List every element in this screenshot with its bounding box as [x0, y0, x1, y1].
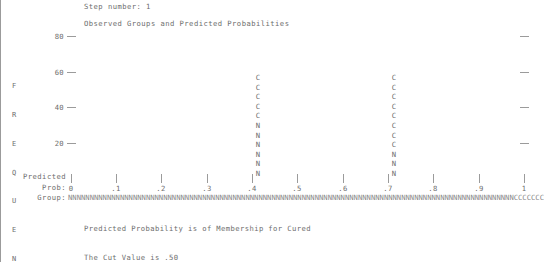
legend-block: Predicted Probability is of Membership f…	[84, 204, 311, 262]
y-tick-left-40	[67, 107, 76, 108]
x-tick-label-03: .3	[199, 184, 215, 193]
x-tick-02	[161, 174, 162, 183]
x-tick-08	[433, 174, 434, 183]
x-tick-label-01: .1	[108, 184, 124, 193]
y-axis-title-letter: R	[12, 111, 30, 121]
y-tick-left-60	[67, 72, 76, 73]
y-tick-right-60	[520, 72, 529, 73]
plot-symbol: N	[253, 150, 263, 160]
plot-symbol: N	[253, 121, 263, 131]
plot-symbol: N	[253, 140, 263, 150]
plot-symbol: N	[389, 169, 399, 179]
x-tick-label-09: .9	[471, 184, 487, 193]
x-tick-label-02: .2	[153, 184, 169, 193]
x-tick-label-06: .6	[335, 184, 351, 193]
plot-symbol: C	[389, 140, 399, 150]
plot-symbol: C	[389, 102, 399, 112]
y-tick-left-80	[67, 36, 76, 37]
plot-symbol: C	[389, 121, 399, 131]
y-tick-right-20	[520, 143, 529, 144]
y-axis-title: F R E Q U E N C Y	[12, 63, 30, 262]
y-tick-right-80	[520, 36, 529, 37]
x-tick-01	[116, 174, 117, 183]
y-tick-label-20: 20	[44, 139, 64, 148]
symbol-column: C C C C C N N N N N N	[253, 73, 263, 179]
legend-line-probability: Predicted Probability is of Membership f…	[84, 224, 311, 234]
plot-symbol: N	[389, 150, 399, 160]
y-tick-label-80: 80	[44, 32, 64, 41]
y-tick-label-60: 60	[44, 68, 64, 77]
plot-symbol: N	[389, 159, 399, 169]
y-tick-label-40: 40	[44, 103, 64, 112]
y-axis-title-letter: F	[12, 82, 30, 92]
x-tick-label-08: .8	[425, 184, 441, 193]
group-row-label: Group:	[2, 193, 66, 202]
predicted-group-strip: NNNNNNNNNNNNNNNNNNNNNNNNNNNNNNNNNNNNNNNN…	[68, 193, 544, 202]
plot-symbol: C	[389, 83, 399, 93]
plot-symbol: N	[253, 159, 263, 169]
plot-symbol: C	[389, 73, 399, 83]
y-tick-right-40	[520, 107, 529, 108]
x-tick-05	[297, 174, 298, 183]
plot-symbol: C	[253, 111, 263, 121]
plot-symbol: C	[253, 92, 263, 102]
page-title: Observed Groups and Predicted Probabilit…	[84, 19, 289, 28]
plot-symbol: C	[389, 131, 399, 141]
x-tick-0	[71, 174, 72, 183]
x-tick-label-1: 1	[516, 184, 532, 193]
plot-symbol: N	[253, 169, 263, 179]
x-tick-09	[479, 174, 480, 183]
x-tick-label-05: .5	[289, 184, 305, 193]
plot-symbol: C	[389, 92, 399, 102]
y-axis-right-line	[0, 142, 1, 262]
y-axis-title-letter: E	[12, 226, 30, 236]
prob-row-label: Prob:	[2, 183, 66, 192]
plot-symbol: C	[253, 83, 263, 93]
plot-symbol: C	[389, 111, 399, 121]
legend-line-cut-value: The Cut Value is .50	[84, 253, 311, 262]
plot-symbol: C	[253, 73, 263, 83]
y-axis-title-letter: N	[12, 255, 30, 262]
symbol-column: C C C C C C C C N N N	[389, 73, 399, 179]
x-tick-label-07: .7	[380, 184, 396, 193]
plot-symbol: C	[253, 102, 263, 112]
x-tick-06	[343, 174, 344, 183]
y-axis-left-line	[0, 0, 1, 142]
x-tick-03	[207, 174, 208, 183]
x-tick-1	[524, 174, 525, 183]
step-number-line: Step number: 1	[84, 2, 151, 11]
predicted-row-label: Predicted	[2, 172, 66, 181]
y-tick-left-20	[67, 143, 76, 144]
y-axis-title-letter: E	[12, 140, 30, 150]
classification-plot-output: Step number: 1 Observed Groups and Predi…	[0, 0, 544, 262]
x-tick-label-04: .4	[244, 184, 260, 193]
plot-symbol: N	[253, 131, 263, 141]
